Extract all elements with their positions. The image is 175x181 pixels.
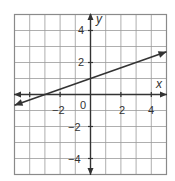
y-axis-label: y	[95, 12, 103, 26]
y-tick-label-neg2: −2	[68, 121, 81, 133]
y-tick-label-neg4: −4	[68, 153, 81, 165]
origin-label: 0	[80, 99, 86, 111]
x-tick-label-4: 4	[148, 104, 154, 116]
x-tick-label-neg2: −2	[52, 104, 65, 116]
x-axis-label: x	[155, 77, 163, 91]
line-left-arrow-icon	[15, 99, 24, 106]
y-tick-label-2: 2	[78, 56, 84, 68]
y-tick-label-4: 4	[78, 24, 84, 36]
coordinate-plane: y x 0 −2 2 4 4 2 −2 −4	[0, 0, 175, 181]
line-right-arrow-icon	[158, 51, 167, 58]
x-tick-label-2: 2	[119, 104, 125, 116]
